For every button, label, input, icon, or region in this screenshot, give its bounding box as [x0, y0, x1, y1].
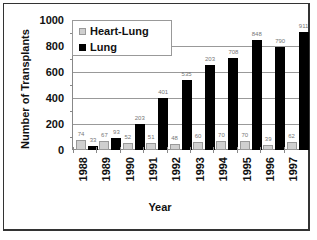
x-tick-label: 1992: [170, 157, 182, 187]
x-minor-tick: [143, 147, 144, 153]
x-minor-tick: [190, 147, 191, 153]
x-axis-label: Year: [148, 201, 171, 213]
y-minor-tick: [70, 111, 73, 112]
y-minor-tick: [70, 59, 73, 60]
lung-swatch-icon: [79, 44, 86, 51]
x-minor-tick: [237, 147, 238, 153]
legend-item-lung: Lung: [79, 41, 117, 53]
bar-value-label: 203: [200, 56, 220, 62]
x-minor-tick: [167, 147, 168, 153]
bar-value-label: 708: [223, 49, 243, 55]
x-tick-label: 1991: [147, 157, 159, 187]
y-minor-tick: [70, 85, 73, 86]
x-tick-label: 1996: [264, 157, 276, 187]
bar-value-label: 790: [270, 38, 290, 44]
heart-lung-bar-1997: [287, 142, 297, 150]
lung-bar-1991: [158, 98, 168, 150]
heart-lung-swatch-icon: [79, 28, 86, 35]
heart-lung-bar-1991: [146, 143, 156, 150]
legend-item-heart-lung: Heart-Lung: [79, 25, 149, 37]
x-minor-tick: [284, 147, 285, 153]
heart-lung-bar-1990: [123, 143, 133, 150]
bar-value-label: 911: [294, 23, 314, 29]
lung-bar-1992: [182, 80, 192, 150]
heart-lung-bar-1994: [216, 141, 226, 150]
x-tick-label: 1993: [194, 157, 206, 187]
bar-value-label: 535: [177, 71, 197, 77]
x-tick-label: 1990: [124, 157, 136, 187]
x-minor-tick: [260, 147, 261, 153]
x-tick-label: 1997: [287, 157, 299, 187]
legend: Heart-Lung Lung: [72, 20, 172, 56]
y-axis-label: Number of Transplants: [19, 24, 31, 154]
bar-value-label: 401: [153, 89, 173, 95]
legend-label-lung: Lung: [90, 41, 117, 53]
lung-bar-1995: [252, 40, 262, 150]
heart-lung-bar-1989: [99, 141, 109, 150]
heart-lung-bar-1993: [193, 142, 203, 150]
bar-value-label: 203: [130, 115, 150, 121]
x-minor-tick: [73, 147, 74, 153]
heart-lung-bar-1996: [263, 145, 273, 150]
x-minor-tick: [213, 147, 214, 153]
lung-bar-1997: [299, 32, 309, 150]
bar-value-label: 848: [247, 31, 267, 37]
x-tick-label: 1988: [77, 157, 89, 187]
x-minor-tick: [120, 147, 121, 153]
heart-lung-bar-1992: [170, 144, 180, 150]
heart-lung-bar-1995: [240, 141, 250, 150]
x-tick-label: 1995: [241, 157, 253, 187]
x-minor-tick: [96, 147, 97, 153]
x-tick-label: 1994: [217, 157, 229, 187]
legend-label-heart-lung: Heart-Lung: [90, 25, 149, 37]
x-tick-label: 1989: [100, 157, 112, 187]
